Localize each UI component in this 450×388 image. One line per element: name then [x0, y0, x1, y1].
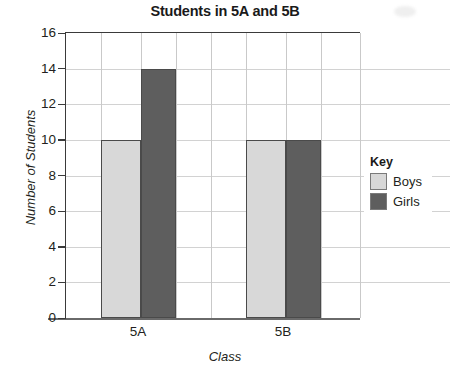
bar-5a-girls — [141, 69, 176, 318]
legend-label-boys: Boys — [393, 174, 422, 189]
x-axis-title: Class — [0, 349, 450, 364]
y-tick-label: 2 — [16, 274, 56, 289]
y-tick-label: 0 — [16, 310, 56, 325]
y-tick — [58, 139, 66, 140]
gridline-vertical — [360, 33, 361, 318]
legend-title: Key — [370, 155, 427, 169]
x-tick-label-5a: 5A — [98, 324, 178, 339]
bar-5b-boys — [246, 140, 286, 318]
y-tick — [58, 33, 66, 34]
chart-title: Students in 5A and 5B — [0, 3, 450, 19]
y-tick-label: 16 — [16, 25, 56, 40]
gridline-vertical — [211, 33, 212, 318]
y-axis-title: Number of Students — [23, 68, 38, 268]
y-tick — [58, 246, 66, 247]
legend-item-girls: Girls — [370, 193, 427, 210]
y-tick — [58, 211, 66, 212]
bar-5b-girls — [286, 140, 321, 318]
legend-swatch-boys — [370, 173, 387, 190]
scan-artifact — [394, 6, 416, 17]
plot-area — [66, 33, 360, 318]
x-axis-line — [48, 318, 360, 320]
gridline-vertical — [176, 33, 177, 318]
y-tick — [58, 318, 66, 319]
gridline-horizontal — [66, 104, 450, 105]
y-tick — [58, 175, 66, 176]
legend-swatch-girls — [370, 193, 387, 210]
legend-item-boys: Boys — [370, 173, 427, 190]
legend-key: Key Boys Girls — [364, 151, 432, 219]
gridline-vertical — [321, 33, 322, 318]
bar-5a-boys — [101, 140, 141, 318]
gridline-horizontal — [66, 69, 450, 70]
y-tick — [58, 104, 66, 105]
y-tick — [58, 282, 66, 283]
y-tick — [58, 68, 66, 69]
legend-label-girls: Girls — [393, 194, 420, 209]
x-tick-label-5b: 5B — [243, 324, 323, 339]
